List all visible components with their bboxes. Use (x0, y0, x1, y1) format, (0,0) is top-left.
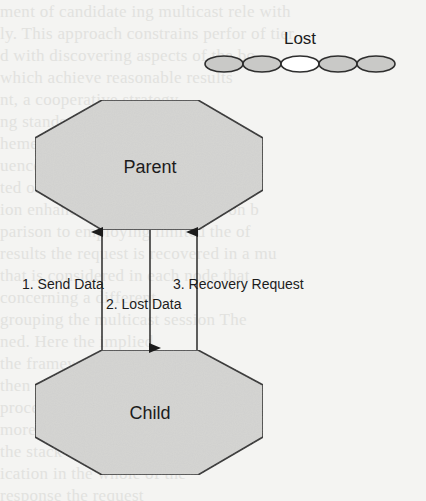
packet-stream-label: Lost (284, 29, 316, 48)
packet-bead-received (205, 56, 243, 72)
parent-node: Parent (35, 100, 263, 230)
packet-bead-received (243, 56, 281, 72)
parent-child-recovery-diagram: Lost Parent Child 1. Send Data 2. Lost D… (0, 0, 426, 501)
edge-lost-data: 2. Lost Data (106, 230, 182, 348)
child-node: Child (35, 350, 263, 475)
packet-bead-lost (281, 56, 319, 72)
edge-lost-data-label: 2. Lost Data (106, 296, 182, 312)
parent-label: Parent (123, 157, 176, 177)
child-label: Child (129, 403, 170, 423)
packet-stream: Lost (205, 29, 395, 72)
packet-bead-received (319, 56, 357, 72)
edge-recovery-request: 3. Recovery Request (173, 232, 304, 350)
packet-bead-received (357, 56, 395, 72)
edge-recovery-request-label: 3. Recovery Request (173, 276, 304, 292)
edge-send-data-label: 1. Send Data (22, 276, 104, 292)
edge-send-data: 1. Send Data (22, 232, 104, 350)
